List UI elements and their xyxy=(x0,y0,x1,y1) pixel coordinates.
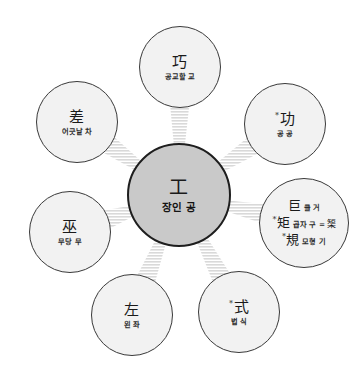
node-node-geo[interactable]: 巨클 거*矩곱자 구=榘*規모형 기 xyxy=(259,178,349,268)
node-gloss: 법 식 xyxy=(231,318,248,326)
node-line-group: 巨클 거*矩곱자 구=榘*規모형 기 xyxy=(272,199,335,247)
node-node-jwa[interactable]: 左왼 좌 xyxy=(91,274,173,356)
center-gloss: 장인 공 xyxy=(162,202,196,213)
variant-han-character: 榘 xyxy=(327,220,336,230)
node-han-character: 差 xyxy=(69,109,85,125)
node-han-character: *功 xyxy=(275,111,295,127)
reference-mark-icon: * xyxy=(272,215,277,224)
node-gloss: 공교할 교 xyxy=(165,73,196,81)
reference-mark-icon: * xyxy=(229,299,234,308)
node-gloss: 곱자 구 xyxy=(293,221,317,229)
node-gloss: 공 공 xyxy=(277,130,294,138)
node-gloss: 무당 무 xyxy=(58,238,82,246)
center-han-character: 工 xyxy=(169,177,189,198)
node-gloss: 어긋날 차 xyxy=(62,128,93,136)
connector-node-gyo xyxy=(170,106,189,145)
node-line: *矩곱자 구=榘 xyxy=(272,216,335,230)
node-node-gyo[interactable]: 巧공교할 교 xyxy=(139,26,221,108)
node-line: 巨클 거 xyxy=(288,199,321,213)
hanja-radial-diagram: 工장인 공巧공교할 교*功공 공巨클 거*矩곱자 구=榘*規모형 기*式법 식左… xyxy=(0,0,358,376)
node-han-character: *矩 xyxy=(272,216,290,230)
equals-sign: = xyxy=(319,221,325,229)
node-node-cha[interactable]: 差어긋날 차 xyxy=(36,81,118,163)
node-node-sik[interactable]: *式법 식 xyxy=(198,271,280,353)
node-han-character: *式 xyxy=(229,299,249,315)
node-node-mu[interactable]: 巫무당 무 xyxy=(29,191,111,273)
node-han-character: *規 xyxy=(282,233,300,247)
node-line: *規모형 기 xyxy=(282,233,326,247)
node-gloss: 모형 기 xyxy=(302,238,326,246)
center-node-center-gong[interactable]: 工장인 공 xyxy=(127,143,231,247)
reference-mark-icon: * xyxy=(275,111,280,120)
node-node-gong-merit[interactable]: *功공 공 xyxy=(244,83,326,165)
node-han-character: 左 xyxy=(124,302,140,318)
node-han-character: 巫 xyxy=(62,219,78,235)
node-gloss: 왼 좌 xyxy=(124,321,141,329)
node-han-character: 巨 xyxy=(288,199,302,213)
reference-mark-icon: * xyxy=(282,232,287,241)
node-gloss: 클 거 xyxy=(304,204,321,212)
node-han-character: 巧 xyxy=(172,54,188,70)
